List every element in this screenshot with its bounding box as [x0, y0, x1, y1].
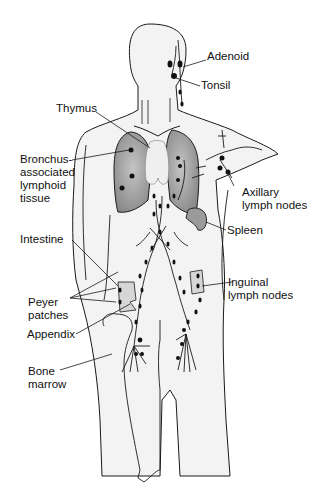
axillary-node [220, 156, 225, 161]
label-spleen: Spleen [227, 224, 263, 237]
intestine-left [118, 282, 136, 312]
label-tonsil: Tonsil [201, 79, 230, 92]
inguinal-node [198, 298, 201, 303]
lymphoid-organs-diagram: Adenoid Tonsil Thymus Bronchus- associat… [0, 0, 316, 486]
label-axillary-lymph-nodes: Axillary lymph nodes [242, 186, 307, 212]
body-outline [73, 24, 278, 476]
label-intestine: Intestine [20, 233, 63, 246]
adenoid-node [168, 61, 173, 68]
label-inguinal-lymph-nodes: Inguinal lymph nodes [228, 276, 293, 302]
peyer-node [118, 287, 121, 292]
label-thymus: Thymus [56, 102, 97, 115]
label-balt: Bronchus- associated lymphoid tissue [20, 153, 75, 205]
label-peyer-patches: Peyer patches [28, 296, 68, 322]
intestine-right [190, 270, 204, 294]
label-adenoid: Adenoid [207, 50, 249, 63]
label-appendix: Appendix [27, 328, 75, 341]
label-bone-marrow: Bone marrow [28, 365, 66, 391]
balt-node [129, 148, 134, 153]
